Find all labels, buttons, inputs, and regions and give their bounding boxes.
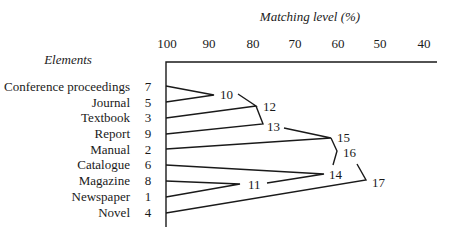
element-name: Textbook: [81, 110, 130, 125]
element-id: 9: [145, 126, 152, 141]
node-label-14: 14: [329, 167, 343, 182]
axis-title: Matching level (%): [259, 9, 360, 24]
x-tick-labels: 100 90 80 70 60 50 40: [157, 36, 430, 51]
element-name: Catalogue: [77, 157, 130, 172]
tick-80: 80: [247, 36, 260, 51]
tick-40: 40: [418, 36, 431, 51]
node-label-11: 11: [248, 177, 261, 192]
node-label-16: 16: [343, 145, 357, 160]
branch-10: [166, 86, 214, 102]
element-name: Report: [95, 126, 131, 141]
element-id: 5: [145, 95, 152, 110]
node-label-12: 12: [263, 99, 276, 114]
element-name: Manual: [90, 142, 130, 157]
element-id: 7: [145, 79, 152, 94]
tick-60: 60: [332, 36, 345, 51]
tick-50: 50: [374, 36, 387, 51]
element-name: Newspaper: [72, 189, 131, 204]
branch-13: [166, 106, 263, 134]
element-names: Conference proceedings Journal Textbook …: [4, 79, 131, 220]
node-label-10: 10: [220, 87, 233, 102]
element-name: Journal: [92, 95, 131, 110]
dendrogram: Matching level (%) 100 90 80 70 60 50 40…: [0, 0, 457, 237]
element-name: Magazine: [79, 173, 130, 188]
element-id: 4: [145, 205, 152, 220]
element-id: 1: [145, 189, 152, 204]
element-name: Novel: [98, 205, 130, 220]
element-id: 3: [145, 110, 152, 125]
element-ids: 7 5 3 9 2 6 8 1 4: [145, 79, 152, 220]
tick-90: 90: [203, 36, 216, 51]
axis-frame: [166, 62, 437, 227]
element-id: 6: [145, 157, 152, 172]
node-label-13: 13: [267, 119, 280, 134]
branch-11: [166, 181, 240, 197]
tick-70: 70: [289, 36, 302, 51]
branch-14: [166, 165, 324, 183]
branch-12: [166, 94, 256, 118]
node-label-15: 15: [337, 130, 350, 145]
elements-header: Elements: [43, 52, 92, 67]
element-name: Conference proceedings: [4, 79, 130, 94]
element-id: 2: [145, 142, 152, 157]
node-label-17: 17: [372, 175, 386, 190]
tick-100: 100: [157, 36, 177, 51]
element-id: 8: [145, 173, 152, 188]
